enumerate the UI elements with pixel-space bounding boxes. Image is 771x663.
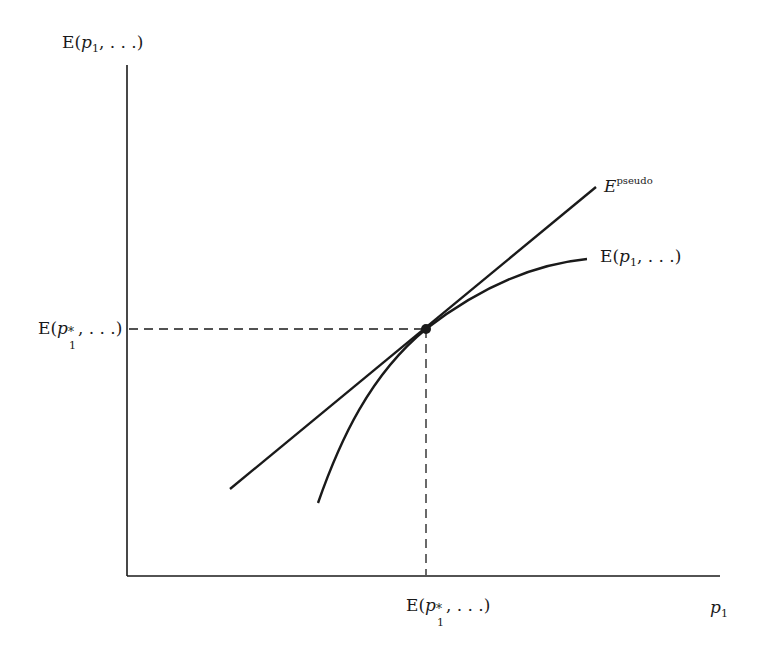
label-text: E(: [600, 246, 619, 266]
label-text: E: [604, 176, 616, 196]
label-sup: *: [68, 326, 74, 338]
label-sub: 1: [630, 256, 637, 269]
curve-label: E(p1, . . .): [600, 248, 681, 268]
label-var: p: [425, 595, 436, 615]
label-sup: *: [436, 603, 442, 615]
y-axis-label: E(p1, . . .): [62, 34, 143, 54]
label-var: p: [57, 318, 68, 338]
label-var: p: [81, 32, 92, 52]
tangency-point: [421, 324, 431, 334]
label-sub: 1: [437, 617, 444, 628]
x-axis-label: p1: [710, 599, 728, 619]
label-rest: , . . .): [446, 595, 490, 615]
expected-value-curve: [318, 259, 587, 503]
label-rest: , . . .): [99, 32, 143, 52]
label-sub: 1: [721, 607, 728, 620]
label-var: p: [710, 597, 721, 617]
label-rest: , . . .): [78, 318, 122, 338]
label-rest: , . . .): [637, 246, 681, 266]
label-sup: pseudo: [616, 175, 652, 186]
label-var: p: [619, 246, 630, 266]
label-text: E(: [406, 595, 425, 615]
label-text: E(: [62, 32, 81, 52]
label-sub: 1: [69, 340, 76, 351]
x-tick-label: E(p*1, . . .): [406, 597, 490, 614]
y-tick-label: E(p*1, . . .): [38, 320, 122, 337]
label-text: E(: [38, 318, 57, 338]
pseudo-line-label: Epseudo: [604, 176, 653, 195]
label-sub: 1: [92, 42, 99, 55]
pseudo-line: [230, 187, 596, 489]
